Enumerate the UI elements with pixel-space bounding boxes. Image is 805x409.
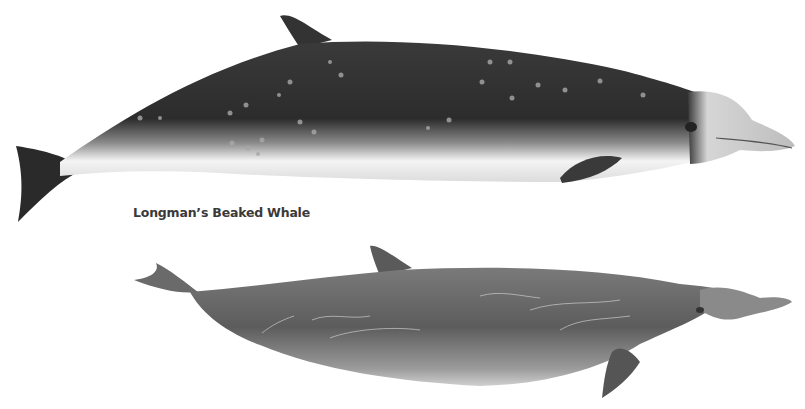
bottom-whale: [134, 246, 792, 398]
bottom-head: [700, 288, 792, 320]
top-eye: [685, 122, 697, 132]
species-label: Longman’s Beaked Whale: [133, 205, 310, 220]
whale-illustration: [0, 0, 805, 409]
top-head: [688, 91, 795, 164]
bottom-eye: [696, 307, 704, 313]
top-whale: [16, 15, 795, 222]
bottom-tail-fluke: [134, 263, 198, 293]
